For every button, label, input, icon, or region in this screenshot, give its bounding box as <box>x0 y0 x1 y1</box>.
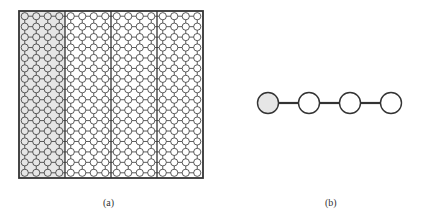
grid-node <box>148 169 155 176</box>
grid-node <box>194 148 201 155</box>
grid-node <box>113 13 120 20</box>
grid-node <box>125 148 132 155</box>
grid-node <box>125 96 132 103</box>
grid-node <box>56 138 63 145</box>
grid-node <box>67 23 74 30</box>
grid-node <box>33 96 40 103</box>
grid-node <box>67 75 74 82</box>
grid-node <box>102 159 109 166</box>
grid-node <box>33 23 40 30</box>
grid-node <box>90 54 97 61</box>
grid-node <box>171 65 178 72</box>
grid-node <box>148 117 155 124</box>
grid-node <box>113 127 120 134</box>
grid-node <box>102 96 109 103</box>
grid-node <box>148 127 155 134</box>
grid-node <box>125 138 132 145</box>
grid-node <box>102 33 109 40</box>
grid-node <box>44 159 51 166</box>
grid-node <box>102 107 109 114</box>
grid-node <box>44 13 51 20</box>
grid-node <box>79 117 86 124</box>
grid-node <box>33 107 40 114</box>
grid-node <box>148 65 155 72</box>
grid-node <box>171 44 178 51</box>
grid-node <box>125 159 132 166</box>
grid-node <box>148 96 155 103</box>
grid-node <box>79 169 86 176</box>
grid-node <box>21 86 28 93</box>
grid-node <box>182 96 189 103</box>
grid-node <box>44 54 51 61</box>
grid-node <box>194 65 201 72</box>
grid-node <box>56 107 63 114</box>
grid-node <box>67 13 74 20</box>
grid-node <box>125 44 132 51</box>
grid-node <box>79 107 86 114</box>
grid-node <box>136 23 143 30</box>
grid-node <box>125 86 132 93</box>
grid-node <box>102 127 109 134</box>
grid-node <box>136 138 143 145</box>
grid-node <box>33 33 40 40</box>
grid-node <box>148 54 155 61</box>
grid-node <box>171 86 178 93</box>
grid-node <box>113 159 120 166</box>
grid-node <box>171 13 178 20</box>
grid-node <box>194 107 201 114</box>
grid-node <box>159 23 166 30</box>
grid-node <box>44 148 51 155</box>
grid-node <box>148 75 155 82</box>
grid-node <box>44 107 51 114</box>
grid-node <box>171 148 178 155</box>
grid-node <box>136 86 143 93</box>
grid-node <box>148 44 155 51</box>
grid-node <box>136 127 143 134</box>
grid-node <box>113 86 120 93</box>
grid-node <box>182 75 189 82</box>
grid-node <box>79 127 86 134</box>
grid-node <box>33 127 40 134</box>
grid-node <box>44 117 51 124</box>
grid-node <box>67 54 74 61</box>
grid-node <box>90 23 97 30</box>
grid-node <box>102 117 109 124</box>
grid-node <box>21 138 28 145</box>
grid-node <box>90 138 97 145</box>
grid-node <box>182 23 189 30</box>
grid-node <box>21 65 28 72</box>
grid-node <box>79 86 86 93</box>
grid-node <box>21 44 28 51</box>
grid-node <box>56 54 63 61</box>
grid-node <box>113 117 120 124</box>
grid-node <box>194 13 201 20</box>
grid-node <box>67 65 74 72</box>
grid-node <box>171 127 178 134</box>
grid-node <box>182 65 189 72</box>
chain-node <box>258 93 279 114</box>
grid-node <box>159 159 166 166</box>
grid-node <box>33 138 40 145</box>
grid-node <box>21 159 28 166</box>
grid-node <box>67 96 74 103</box>
grid-node <box>125 127 132 134</box>
grid-node <box>194 138 201 145</box>
grid-node <box>171 75 178 82</box>
grid-node <box>136 65 143 72</box>
grid-node <box>159 148 166 155</box>
grid-node <box>136 159 143 166</box>
grid-node <box>33 54 40 61</box>
grid-node <box>33 13 40 20</box>
grid-node <box>56 33 63 40</box>
grid-node <box>33 44 40 51</box>
grid-node <box>182 169 189 176</box>
grid-node <box>56 159 63 166</box>
grid-node <box>171 96 178 103</box>
grid-node <box>182 13 189 20</box>
grid-node <box>102 86 109 93</box>
grid-node <box>21 54 28 61</box>
grid-node <box>125 65 132 72</box>
grid-node <box>182 33 189 40</box>
grid-node <box>102 44 109 51</box>
grid-diagram <box>19 11 203 178</box>
